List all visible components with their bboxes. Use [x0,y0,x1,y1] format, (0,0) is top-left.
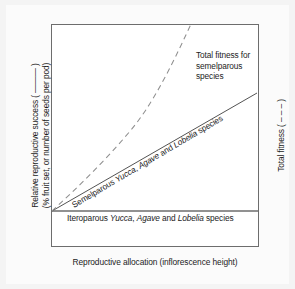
total-fitness-curve [52,24,191,211]
annotation-iteroparous-suffix: species [204,213,234,223]
y-axis-label-right: Total fitness ( – – – ) [271,24,291,247]
annotation-iteroparous-species-yucca: Yucca [110,213,132,223]
y-axis-label-left-line2: (% fruit set, or number of seeds per pod… [41,63,51,208]
annotation-iteroparous-species-lobelia: Lobelia [178,213,204,223]
annotation-iteroparous: Iteroparous Yucca, Agave and Lobelia spe… [67,213,233,223]
annotation-total-fitness-line1: Total fitness for [196,50,250,61]
x-axis-label: Reproductive allocation (inflorescence h… [51,257,259,267]
annotation-total-fitness: Total fitness for semelparous species [196,50,250,82]
annotation-iteroparous-species-agave: Agave [137,213,160,223]
annotation-total-fitness-line3: species [196,71,250,82]
y-axis-label-left-line1: Relative reproductive success ( ——— ) [30,63,40,208]
figure-page: Relative reproductive success ( ——— ) (%… [6,5,289,284]
annotation-iteroparous-prefix: Iteroparous [67,213,110,223]
annotation-iteroparous-sep2: and [160,213,178,223]
annotation-total-fitness-line2: semelparous [196,61,250,72]
y-axis-label-right-text: Total fitness ( – – – ) [276,99,286,172]
figure-container: Relative reproductive success ( ——— ) (%… [0,0,295,289]
